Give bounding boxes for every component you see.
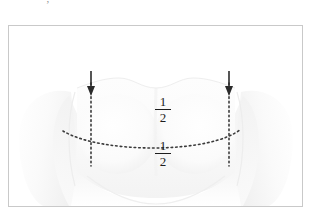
fraction-denominator: 2 bbox=[150, 110, 176, 124]
fraction-label-lower: 1 2 bbox=[150, 139, 176, 168]
fraction-numerator: 1 bbox=[150, 139, 176, 153]
clipped-caption-text: — — — , — — — — — — — — bbox=[4, 0, 163, 4]
figure-frame: 1 2 1 2 bbox=[8, 25, 303, 207]
fraction-numerator: 1 bbox=[150, 95, 176, 109]
clipped-caption-strip: — — — , — — — — — — — — bbox=[0, 0, 312, 7]
fraction-label-upper: 1 2 bbox=[150, 95, 176, 124]
fraction-denominator: 2 bbox=[150, 154, 176, 168]
